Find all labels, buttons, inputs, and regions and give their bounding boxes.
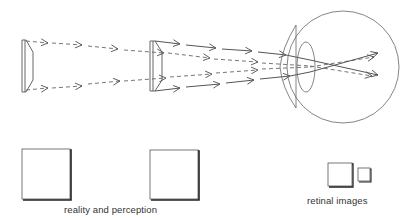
reality-squares xyxy=(22,149,199,200)
diagram-canvas xyxy=(0,0,401,219)
far-object-middle xyxy=(150,41,162,91)
cornea xyxy=(280,25,296,108)
square-left xyxy=(22,149,70,199)
dashed-rays xyxy=(26,41,374,90)
square-middle xyxy=(150,150,198,199)
retinal-image-large xyxy=(328,163,352,186)
near-object-left xyxy=(22,40,33,92)
retinal-squares xyxy=(328,163,371,187)
retinal-images-label: retinal images xyxy=(307,195,368,206)
reality-and-perception-label: reality and perception xyxy=(64,204,157,215)
solid-rays xyxy=(155,41,378,91)
retinal-image-small xyxy=(358,168,370,181)
